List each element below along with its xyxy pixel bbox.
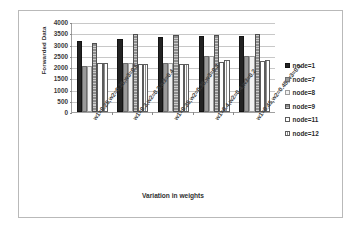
y-tick-label: 0 — [64, 110, 68, 116]
legend-item-node-12[interactable]: node=12 — [285, 127, 343, 141]
x-axis-tick-labels: w1=0.25,w2=0.25,w3=0.5w1=0.3,w2=0.3,w3=0… — [71, 115, 275, 187]
legend-label: node=11 — [293, 116, 319, 123]
y-tick-label: 1500 — [54, 76, 68, 82]
legend-label: node=12 — [293, 130, 319, 137]
y-tick-label: 2500 — [54, 54, 68, 60]
bar-groups — [72, 23, 275, 112]
y-axis-tickmark — [70, 102, 73, 103]
legend-item-node-7[interactable]: node=7 — [285, 73, 343, 87]
legend-swatch-icon — [285, 117, 290, 122]
y-tick-label: 3000 — [54, 43, 68, 49]
y-tick-label: 2000 — [54, 65, 68, 71]
x-axis-title: Variation in weights — [71, 192, 275, 199]
y-tick-label: 500 — [57, 99, 68, 105]
y-axis-tickmark — [70, 46, 73, 47]
y-axis-tickmark — [70, 23, 73, 24]
legend-label: node=9 — [293, 103, 316, 110]
legend-label: node=7 — [293, 76, 316, 83]
y-tick-label: 4000 — [54, 20, 68, 26]
y-axis-tick-labels: 40003500300025002000150010005000 — [43, 23, 68, 113]
y-axis-tickmark — [70, 34, 73, 35]
y-tick-label: 1000 — [54, 88, 68, 94]
legend-swatch-icon — [285, 90, 290, 95]
legend-swatch-icon — [285, 63, 290, 68]
y-axis-tickmark — [70, 68, 73, 69]
y-axis-tickmark — [70, 79, 73, 80]
legend-swatch-icon — [285, 104, 290, 109]
y-axis-tickmark — [70, 113, 73, 114]
y-axis-tickmark — [70, 57, 73, 58]
legend-item-node-8[interactable]: node=8 — [285, 86, 343, 100]
legend-label: node=8 — [293, 89, 316, 96]
plot-area — [71, 23, 275, 113]
legend-item-node-1[interactable]: node=1 — [285, 59, 343, 73]
y-axis-tickmark — [70, 91, 73, 92]
chart-legend: node=1node=7node=8node=9node=11node=12 — [285, 59, 343, 140]
legend-item-node-9[interactable]: node=9 — [285, 100, 343, 114]
y-tick-label: 3500 — [54, 31, 68, 37]
legend-label: node=1 — [293, 62, 316, 69]
legend-swatch-icon — [285, 77, 290, 82]
legend-swatch-icon — [285, 131, 290, 136]
chart-frame: Forwarded Data 4000350030002500200015001… — [18, 10, 343, 218]
legend-item-node-11[interactable]: node=11 — [285, 113, 343, 127]
